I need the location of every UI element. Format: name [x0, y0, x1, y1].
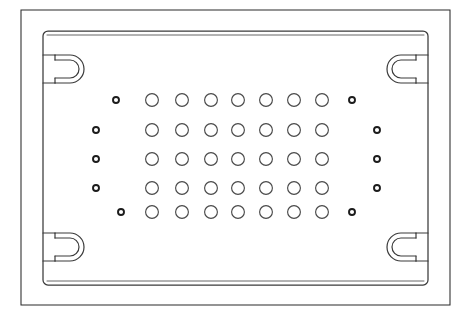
hole-large-r1-c8 — [316, 94, 329, 107]
hole-large-r5-c6 — [260, 206, 273, 219]
perforated-plate-drawing — [0, 0, 474, 319]
hole-large-r2-c6 — [260, 124, 273, 137]
hole-large-r5-c2 — [146, 206, 159, 219]
hole-large-r2-c4 — [205, 124, 218, 137]
hole-large-r2-c8 — [316, 124, 329, 137]
hole-small-r5-c1 — [118, 209, 124, 215]
hole-large-r1-c2 — [146, 94, 159, 107]
hole-large-r4-c4 — [205, 182, 218, 195]
hole-small-r3-c1 — [93, 156, 99, 162]
hole-small-r4-c9 — [374, 185, 380, 191]
hole-large-r5-c5 — [232, 206, 245, 219]
hole-large-r5-c7 — [288, 206, 301, 219]
hole-small-r5-c9 — [349, 209, 355, 215]
hole-row-1 — [113, 94, 355, 107]
hole-large-r4-c7 — [288, 182, 301, 195]
hole-large-r3-c6 — [260, 153, 273, 166]
hole-large-r1-c7 — [288, 94, 301, 107]
hole-large-r2-c7 — [288, 124, 301, 137]
hole-large-r4-c3 — [176, 182, 189, 195]
hole-small-r2-c1 — [93, 127, 99, 133]
hole-large-r3-c7 — [288, 153, 301, 166]
hole-large-r1-c3 — [176, 94, 189, 107]
hole-large-r2-c5 — [232, 124, 245, 137]
hole-large-r4-c8 — [316, 182, 329, 195]
hole-large-r3-c5 — [232, 153, 245, 166]
hole-large-r1-c5 — [232, 94, 245, 107]
technical-drawing-canvas — [0, 0, 474, 319]
hole-large-r4-c5 — [232, 182, 245, 195]
hole-small-r4-c1 — [93, 185, 99, 191]
hole-large-r5-c4 — [205, 206, 218, 219]
hole-large-r4-c6 — [260, 182, 273, 195]
hole-large-r5-c3 — [176, 206, 189, 219]
hole-large-r3-c3 — [176, 153, 189, 166]
hole-large-r5-c8 — [316, 206, 329, 219]
hole-large-r3-c4 — [205, 153, 218, 166]
hole-large-r3-c8 — [316, 153, 329, 166]
hole-large-r3-c2 — [146, 153, 159, 166]
hole-large-r1-c6 — [260, 94, 273, 107]
hole-small-r1-c1 — [113, 97, 119, 103]
hole-row-5 — [118, 206, 355, 219]
hole-large-r2-c3 — [176, 124, 189, 137]
hole-small-r2-c9 — [374, 127, 380, 133]
hole-large-r1-c4 — [205, 94, 218, 107]
hole-large-r2-c2 — [146, 124, 159, 137]
hole-small-r3-c9 — [374, 156, 380, 162]
hole-small-r1-c9 — [349, 97, 355, 103]
hole-large-r4-c2 — [146, 182, 159, 195]
